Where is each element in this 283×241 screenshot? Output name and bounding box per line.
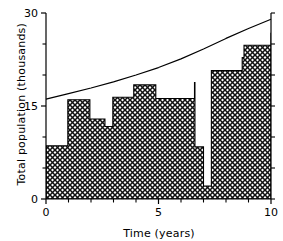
x-tick-label: 5 (155, 206, 162, 219)
x-axis-label: Time (years) (123, 227, 195, 240)
x-tick-label: 0 (43, 206, 50, 219)
y-axis-label-wrapper: Total population (thousands) (10, 26, 29, 186)
y-axis-label: Total population (thousands) (15, 23, 28, 186)
x-tick-label: 10 (264, 206, 278, 219)
chart-figure: 015300510 Total population (thousands) T… (0, 0, 283, 241)
population-step-chart: 015300510 (0, 0, 283, 241)
plot-area (46, 19, 271, 199)
population-area-fill (46, 33, 271, 199)
x-axis-label-wrapper: Time (years) (46, 222, 272, 241)
y-tick-label: 0 (31, 193, 38, 206)
y-tick-label: 30 (24, 7, 38, 20)
